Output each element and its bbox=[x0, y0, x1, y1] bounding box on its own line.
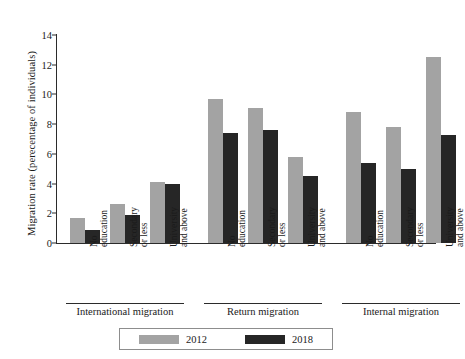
x-axis-category-label: Noeducation bbox=[227, 210, 247, 247]
y-axis-tick-mark bbox=[52, 213, 56, 214]
x-axis-category-label: Noeducation bbox=[89, 210, 109, 247]
category-label-line: or less bbox=[415, 207, 425, 247]
group-label: International migration bbox=[76, 306, 173, 317]
category-label-line: and above bbox=[455, 207, 465, 247]
bar-2012 bbox=[150, 182, 165, 243]
legend-label-2012: 2012 bbox=[186, 334, 207, 345]
legend-item-2012: 2012 bbox=[139, 334, 207, 345]
bar-2012 bbox=[248, 108, 263, 243]
category-label-line: No bbox=[365, 210, 375, 247]
x-axis-category-label: Universityand above bbox=[169, 207, 189, 247]
y-axis-tick-mark bbox=[52, 183, 56, 184]
category-label-line: education bbox=[237, 210, 247, 247]
group-rule bbox=[342, 303, 460, 304]
bar-2012 bbox=[288, 157, 303, 243]
bar-2012 bbox=[346, 112, 361, 243]
category-label-line: Secondary bbox=[405, 207, 415, 247]
y-axis-tick-mark bbox=[52, 243, 56, 244]
chart-legend: 2012 2018 bbox=[119, 328, 333, 350]
y-axis-tick-mark bbox=[52, 94, 56, 95]
category-label-line: education bbox=[375, 210, 385, 247]
y-axis-tick-mark bbox=[52, 64, 56, 65]
group-rule bbox=[66, 303, 184, 304]
x-axis-category-label: Secondaryor less bbox=[267, 207, 287, 247]
x-axis-category-label: Noeducation bbox=[365, 210, 385, 247]
y-axis-tick-mark bbox=[52, 153, 56, 154]
bar-2012 bbox=[426, 57, 441, 243]
category-label-line: University bbox=[445, 207, 455, 247]
legend-label-2018: 2018 bbox=[292, 334, 313, 345]
x-axis-category-label: Universityand above bbox=[445, 207, 465, 247]
legend-item-2018: 2018 bbox=[245, 334, 313, 345]
y-axis-tick-label: 14 bbox=[42, 30, 53, 41]
x-axis-category-label: Secondaryor less bbox=[129, 207, 149, 247]
category-label-line: education bbox=[99, 210, 109, 247]
y-axis-tick-label: 10 bbox=[42, 89, 53, 100]
x-axis-category-label: Secondaryor less bbox=[405, 207, 425, 247]
category-label-line: Secondary bbox=[129, 207, 139, 247]
x-axis-category-label: Universityand above bbox=[307, 207, 327, 247]
category-label-line: Secondary bbox=[267, 207, 277, 247]
legend-swatch-2012-icon bbox=[139, 335, 179, 344]
category-label-line: No bbox=[227, 210, 237, 247]
group-rule bbox=[204, 303, 322, 304]
category-label-line: No bbox=[89, 210, 99, 247]
bar-2012 bbox=[70, 218, 85, 243]
bar-2012 bbox=[208, 99, 223, 243]
category-label-line: University bbox=[169, 207, 179, 247]
bar-2012 bbox=[110, 204, 125, 243]
category-label-line: or less bbox=[139, 207, 149, 247]
y-axis-tick-mark bbox=[52, 124, 56, 125]
group-label: Internal migration bbox=[363, 306, 439, 317]
category-label-line: University bbox=[307, 207, 317, 247]
y-axis-title: Migration rate (perecentage of individua… bbox=[26, 29, 37, 259]
category-label-line: or less bbox=[277, 207, 287, 247]
legend-swatch-2018-icon bbox=[245, 335, 285, 344]
category-label-line: and above bbox=[317, 207, 327, 247]
bar-2012 bbox=[386, 127, 401, 243]
group-label: Return migration bbox=[227, 306, 299, 317]
category-label-line: and above bbox=[179, 207, 189, 247]
y-axis-tick-label: 12 bbox=[42, 59, 53, 70]
y-axis-tick-mark bbox=[52, 35, 56, 36]
